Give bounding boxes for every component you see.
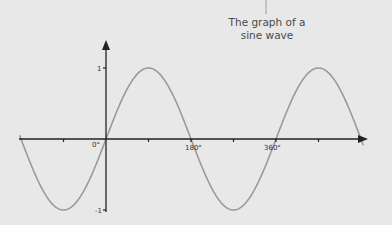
x-tick-label-180: 180° xyxy=(185,144,202,152)
x-tick-label-0: 0° xyxy=(92,141,100,149)
y-tick-label-minus-1: -1 xyxy=(95,207,102,215)
sine-wave-figure: The graph of a sine wave 0° 180° 360° 1 … xyxy=(0,0,392,225)
x-tick-label-360: 360° xyxy=(264,144,281,152)
y-tick-label-1: 1 xyxy=(97,65,101,73)
y-axis-arrow-icon xyxy=(102,40,110,50)
x-axis-arrow-icon xyxy=(358,135,368,143)
chart-canvas: 0° 180° 360° 1 -1 xyxy=(0,0,392,225)
